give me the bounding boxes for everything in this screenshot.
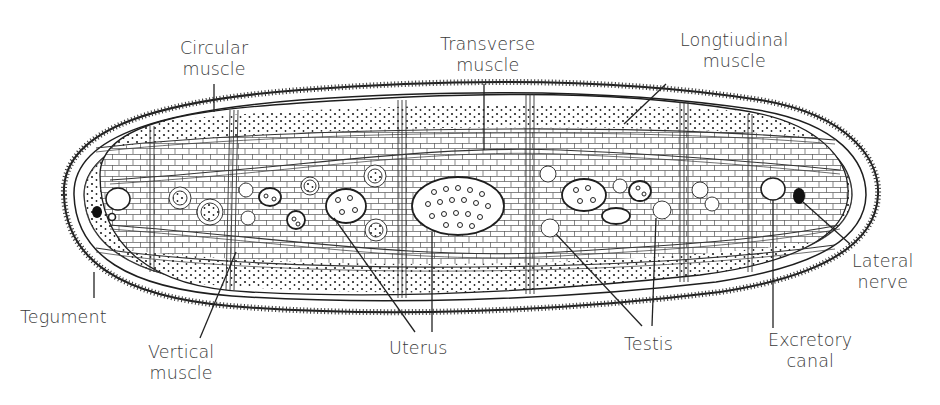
testis-follicle: [540, 166, 556, 182]
uterus-sac: [629, 181, 651, 201]
testis-follicle: [241, 211, 255, 225]
uterus-sac: [602, 208, 630, 224]
label-vertical-muscle: Vertical muscle: [148, 342, 214, 384]
testis-follicle: [705, 197, 719, 211]
label-testis: Testis: [624, 334, 673, 355]
testis-follicle: [239, 183, 253, 197]
uterus-sac: [562, 179, 606, 211]
label-longitudinal-muscle: Longtiudinal muscle: [680, 30, 788, 72]
testis-follicle: [301, 177, 319, 195]
testis-follicle: [197, 199, 223, 225]
label-uterus: Uterus: [389, 338, 447, 359]
uterus-sac: [326, 189, 366, 223]
label-excretory-canal: Excretory canal: [768, 330, 852, 372]
uterus-sac: [259, 188, 281, 206]
label-lateral-nerve: Lateral nerve: [852, 251, 914, 293]
testis-follicle: [613, 179, 627, 193]
testis-follicle: [364, 165, 386, 187]
lateral-nerve-left: [92, 206, 102, 218]
lateral-nerve-right: [793, 188, 805, 204]
label-circular-muscle: Circular muscle: [180, 38, 248, 80]
excretory-canal-right: [761, 178, 785, 200]
testis-follicle: [365, 219, 387, 241]
excretory-canal-left: [106, 188, 130, 210]
testis-follicle: [169, 187, 191, 209]
testis-follicle: [653, 201, 671, 219]
label-transverse-muscle: Transverse muscle: [440, 34, 535, 76]
testis-follicle: [692, 182, 708, 198]
label-tegument: Tegument: [20, 307, 107, 328]
